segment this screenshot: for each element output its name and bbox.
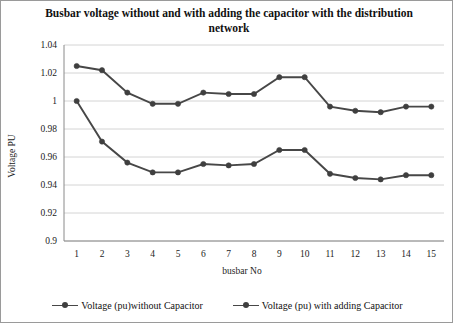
data-point: [302, 75, 307, 80]
y-axis-title: Voltage PU: [7, 134, 17, 178]
y-tick-label: 1: [52, 96, 57, 106]
data-point: [251, 91, 256, 96]
x-tick-label: 13: [376, 249, 386, 259]
legend-label: Voltage (pu)without Capacitor: [81, 300, 202, 311]
data-point: [99, 139, 104, 144]
data-point: [175, 101, 180, 106]
data-point: [403, 104, 408, 109]
x-tick-label: 1: [74, 249, 79, 259]
data-point: [353, 175, 358, 180]
y-tick-label: 0.98: [40, 124, 57, 134]
data-point: [327, 171, 332, 176]
x-tick-label: 8: [252, 249, 257, 259]
x-tick-label: 15: [427, 249, 437, 259]
plot-area: 1.041.0210.980.960.940.920.9 12345678910…: [1, 1, 453, 323]
y-axis-ticks: 1.041.0210.980.960.940.920.9: [40, 40, 57, 246]
data-point: [226, 163, 231, 168]
chart-svg: 1.041.0210.980.960.940.920.9 12345678910…: [1, 1, 453, 323]
data-point: [175, 170, 180, 175]
x-tick-label: 4: [150, 249, 155, 259]
line-marker-icon: [233, 301, 259, 310]
data-point: [353, 108, 358, 113]
data-point: [277, 75, 282, 80]
legend-item-with-capacitor[interactable]: Voltage (pu) with adding Capacitor: [233, 300, 403, 311]
x-tick-label: 5: [176, 249, 181, 259]
y-tick-label: 1.02: [40, 68, 57, 78]
x-tick-label: 9: [277, 249, 282, 259]
legend-item-without-capacitor[interactable]: Voltage (pu)without Capacitor: [52, 300, 202, 311]
data-point: [429, 173, 434, 178]
data-point: [74, 63, 79, 68]
data-point: [201, 90, 206, 95]
data-point: [99, 68, 104, 73]
data-point: [429, 104, 434, 109]
data-point: [378, 110, 383, 115]
data-point: [226, 91, 231, 96]
data-point: [201, 161, 206, 166]
y-tick-label: 0.9: [45, 236, 57, 246]
data-point: [125, 160, 130, 165]
data-point: [302, 147, 307, 152]
y-tick-label: 0.94: [40, 180, 57, 190]
gridlines: [64, 45, 444, 241]
y-tick-label: 0.92: [40, 208, 57, 218]
chart-container: Busbar voltage without and with adding t…: [0, 0, 453, 323]
x-tick-label: 12: [351, 249, 361, 259]
chart-legend: Voltage (pu)without Capacitor Voltage (p…: [1, 293, 453, 317]
data-point: [277, 147, 282, 152]
y-tick-label: 1.04: [40, 40, 57, 50]
line-marker-icon: [52, 301, 78, 310]
data-point: [327, 104, 332, 109]
x-tick-label: 6: [201, 249, 206, 259]
x-axis-ticks: 123456789101112131415: [74, 249, 436, 259]
x-tick-label: 7: [226, 249, 231, 259]
x-axis-title: busbar No: [222, 266, 262, 276]
legend-label: Voltage (pu) with adding Capacitor: [262, 300, 403, 311]
data-point: [125, 90, 130, 95]
x-tick-label: 14: [401, 249, 411, 259]
data-point: [74, 98, 79, 103]
x-tick-label: 2: [100, 249, 105, 259]
y-tick-label: 0.96: [40, 152, 57, 162]
data-point: [150, 101, 155, 106]
data-point: [378, 177, 383, 182]
data-point: [251, 161, 256, 166]
data-series: [74, 63, 434, 182]
data-point: [150, 170, 155, 175]
x-tick-label: 10: [300, 249, 310, 259]
data-point: [403, 173, 408, 178]
x-tick-label: 3: [125, 249, 130, 259]
x-tick-label: 11: [325, 249, 334, 259]
